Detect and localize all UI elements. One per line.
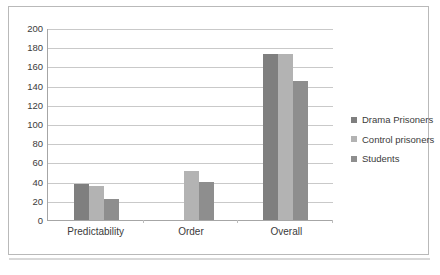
plot-area: 020406080100120140160180200 <box>47 29 333 221</box>
bar-group <box>49 29 144 220</box>
legend-swatch-icon <box>351 117 357 123</box>
frame-shadow <box>9 258 430 260</box>
legend-item-label: Drama Prisoners <box>362 115 433 125</box>
x-axis-tick <box>237 220 238 223</box>
legend-item-label: Students <box>362 154 400 164</box>
y-axis-tick-label: 200 <box>27 24 43 34</box>
y-axis-tick-label: 80 <box>32 139 43 149</box>
bar <box>74 184 89 220</box>
y-axis-tick-label: 140 <box>27 82 43 92</box>
y-axis-tick-label: 0 <box>38 216 43 226</box>
chart-legend: Drama PrisonersControl prisonersStudents <box>351 115 434 174</box>
y-axis-tick-label: 40 <box>32 178 43 188</box>
x-axis-tick <box>143 220 144 223</box>
bar-group <box>238 29 333 220</box>
bars-layer <box>49 29 333 220</box>
bar <box>278 54 293 220</box>
bar <box>184 171 199 220</box>
y-axis-tick-label: 180 <box>27 43 43 53</box>
bar <box>263 54 278 220</box>
legend-swatch-icon <box>351 136 357 142</box>
bar <box>199 182 214 220</box>
x-axis-tick <box>332 220 333 223</box>
x-axis-labels: PredictabilityOrderOverall <box>48 227 334 237</box>
chart-frame: 020406080100120140160180200 Predictabili… <box>8 6 429 255</box>
bar <box>104 199 119 220</box>
y-axis-tick-label: 100 <box>27 120 43 130</box>
legend-item[interactable]: Drama Prisoners <box>351 115 434 125</box>
bar <box>293 81 308 220</box>
x-axis-tick-label: Predictability <box>48 227 143 237</box>
y-axis-tick-label: 160 <box>27 63 43 73</box>
x-axis-tick-label: Overall <box>239 227 334 237</box>
legend-item[interactable]: Control prisoners <box>351 135 434 145</box>
x-axis-tick-label: Order <box>143 227 238 237</box>
bar <box>89 186 104 220</box>
y-axis-tick-label: 120 <box>27 101 43 111</box>
bar-group <box>144 29 239 220</box>
legend-swatch-icon <box>351 156 357 162</box>
legend-item-label: Control prisoners <box>362 135 434 145</box>
legend-item[interactable]: Students <box>351 154 434 164</box>
y-axis-tick-label: 20 <box>32 197 43 207</box>
y-axis-tick-label: 60 <box>32 159 43 169</box>
